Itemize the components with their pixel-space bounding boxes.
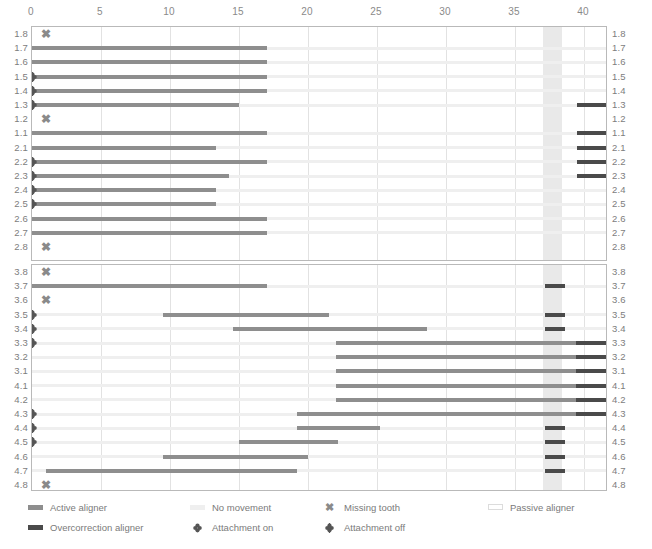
no-movement-track bbox=[32, 455, 606, 458]
legend-item-att_off: Attachment off bbox=[322, 521, 405, 533]
attachment-off-icon bbox=[32, 157, 37, 167]
active-aligner-bar bbox=[32, 46, 267, 50]
x-axis-tick-10: 10 bbox=[163, 6, 175, 17]
table-row bbox=[32, 126, 606, 140]
active-aligner-bar bbox=[32, 146, 216, 150]
row-label-left-2.8: 2.8 bbox=[4, 240, 28, 254]
row-label-left-4.5: 4.5 bbox=[4, 435, 28, 449]
row-label-left-4.2: 4.2 bbox=[4, 393, 28, 407]
attachment-off-icon bbox=[32, 324, 37, 334]
legend-label: Active aligner bbox=[50, 502, 107, 513]
active-aligner-bar bbox=[239, 440, 338, 444]
active-aligner-bar bbox=[32, 202, 216, 206]
row-label-right-3.7: 3.7 bbox=[612, 279, 642, 293]
overcorrection-aligner-bar bbox=[576, 369, 606, 373]
attachment-off-icon bbox=[32, 72, 37, 82]
table-row: ✖ bbox=[32, 293, 606, 307]
row-label-right-1.3: 1.3 bbox=[612, 98, 642, 112]
row-label-right-2.8: 2.8 bbox=[612, 240, 642, 254]
row-label-right-3.2: 3.2 bbox=[612, 350, 642, 364]
overcorrection-aligner-bar bbox=[577, 131, 606, 135]
row-label-right-2.4: 2.4 bbox=[612, 183, 642, 197]
row-label-right-1.6: 1.6 bbox=[612, 55, 642, 69]
table-row bbox=[32, 350, 606, 364]
row-label-right-2.5: 2.5 bbox=[612, 197, 642, 211]
row-label-right-2.6: 2.6 bbox=[612, 212, 642, 226]
row-label-left-1.4: 1.4 bbox=[4, 84, 28, 98]
row-label-left-3.7: 3.7 bbox=[4, 279, 28, 293]
x-axis-tick-40: 40 bbox=[577, 6, 589, 17]
legend-label: Attachment on bbox=[212, 522, 273, 533]
active-aligner-bar bbox=[32, 75, 267, 79]
legend-item-att_on: Attachment on bbox=[190, 521, 273, 533]
legend-label: Missing tooth bbox=[344, 502, 400, 513]
table-row bbox=[32, 41, 606, 55]
row-label-left-2.2: 2.2 bbox=[4, 155, 28, 169]
row-label-left-3.3: 3.3 bbox=[4, 336, 28, 350]
overcorrection-aligner-bar bbox=[577, 146, 606, 150]
table-row bbox=[32, 197, 606, 211]
active-aligner-bar bbox=[32, 284, 267, 288]
overcorrection-aligner-bar bbox=[545, 440, 564, 444]
legend-label: Attachment off bbox=[344, 522, 405, 533]
attachment-off-icon bbox=[32, 86, 37, 96]
active-aligner-bar bbox=[32, 188, 216, 192]
attachment-off-icon bbox=[32, 171, 37, 181]
row-label-left-3.8: 3.8 bbox=[4, 265, 28, 279]
overcorrection-aligner-bar bbox=[545, 469, 564, 473]
overcorrection-aligner-bar bbox=[577, 103, 606, 107]
attachment-off-icon bbox=[32, 338, 37, 348]
attachment-off-icon bbox=[32, 100, 37, 110]
overcorrection-aligner-bar bbox=[576, 398, 606, 402]
row-label-right-4.6: 4.6 bbox=[612, 450, 642, 464]
row-label-right-1.8: 1.8 bbox=[612, 27, 642, 41]
row-label-right-4.4: 4.4 bbox=[612, 421, 642, 435]
legend-item-over: Overcorrection aligner bbox=[28, 521, 143, 533]
row-label-left-1.7: 1.7 bbox=[4, 41, 28, 55]
active-aligner-bar bbox=[163, 455, 308, 459]
missing-tooth-icon: ✖ bbox=[41, 479, 51, 490]
table-row bbox=[32, 379, 606, 393]
x-axis-tick-30: 30 bbox=[439, 6, 451, 17]
overcorrection-aligner-bar bbox=[577, 174, 606, 178]
lower-arch-panel: ✖✖✖ bbox=[31, 264, 607, 491]
legend-item-active: Active aligner bbox=[28, 501, 107, 513]
table-row: ✖ bbox=[32, 240, 606, 254]
table-row: ✖ bbox=[32, 478, 606, 490]
row-label-left-1.3: 1.3 bbox=[4, 98, 28, 112]
attachment-off-icon bbox=[32, 310, 37, 320]
active-aligner-bar bbox=[297, 412, 576, 416]
row-label-right-1.4: 1.4 bbox=[612, 84, 642, 98]
table-row bbox=[32, 212, 606, 226]
row-label-right-3.1: 3.1 bbox=[612, 364, 642, 378]
row-label-right-1.5: 1.5 bbox=[612, 70, 642, 84]
row-label-left-4.1: 4.1 bbox=[4, 379, 28, 393]
overcorrection-aligner-bar bbox=[545, 284, 564, 288]
x-axis-tick-20: 20 bbox=[301, 6, 313, 17]
row-label-left-4.3: 4.3 bbox=[4, 407, 28, 421]
table-row bbox=[32, 393, 606, 407]
attachment-off-icon bbox=[322, 522, 337, 533]
table-row bbox=[32, 336, 606, 350]
row-label-left-1.8: 1.8 bbox=[4, 27, 28, 41]
row-label-left-4.7: 4.7 bbox=[4, 464, 28, 478]
missing-tooth-icon: ✖ bbox=[41, 113, 51, 125]
aligner-treatment-chart: 0510152025303540 ✖✖✖ ✖✖✖ 1.81.81.71.71.6… bbox=[0, 0, 652, 549]
row-label-left-3.1: 3.1 bbox=[4, 364, 28, 378]
table-row bbox=[32, 226, 606, 240]
active-aligner-bar bbox=[297, 426, 380, 430]
x-axis-tick-35: 35 bbox=[508, 6, 520, 17]
attachment-off-icon bbox=[32, 423, 37, 433]
row-label-left-1.6: 1.6 bbox=[4, 55, 28, 69]
row-label-right-3.3: 3.3 bbox=[612, 336, 642, 350]
table-row bbox=[32, 98, 606, 112]
active-aligner-bar bbox=[336, 355, 576, 359]
active-aligner-bar bbox=[32, 89, 267, 93]
legend-label: Passive aligner bbox=[510, 502, 574, 513]
bar-overcorrection-icon bbox=[28, 525, 43, 530]
active-aligner-bar bbox=[163, 313, 329, 317]
table-row bbox=[32, 407, 606, 421]
active-aligner-bar bbox=[336, 384, 576, 388]
row-label-left-2.6: 2.6 bbox=[4, 212, 28, 226]
legend-label: Overcorrection aligner bbox=[50, 522, 143, 533]
